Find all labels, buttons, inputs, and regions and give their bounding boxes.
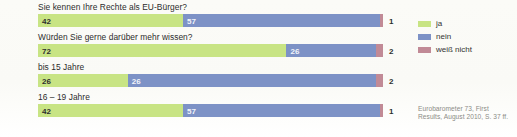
bar-segment-value: 42 (42, 16, 51, 25)
bar-segment-value: 57 (187, 16, 196, 25)
bar-wrapper: 26 26 2 (38, 74, 383, 87)
stacked-bar: 42 57 (38, 14, 383, 27)
legend-item-nein[interactable]: nein (418, 31, 472, 42)
bar-segment-value: 57 (187, 106, 196, 115)
legend-item-ja[interactable]: ja (418, 18, 472, 29)
source-line-1: Eurobarometer 73, First (418, 105, 513, 113)
bar-wrapper: 72 26 2 (38, 44, 383, 57)
legend-item-weiss-nicht[interactable]: weiß nicht (418, 44, 472, 55)
bar-segment-weiss-nicht[interactable] (376, 44, 383, 57)
legend-swatch-icon (418, 21, 431, 27)
source-note: Eurobarometer 73, First Results, August … (418, 105, 513, 121)
bar-segment-weiss-nicht[interactable] (380, 14, 383, 27)
chart-legend: ja nein weiß nicht (418, 18, 472, 57)
row-label: Würden Sie gerne darüber mehr wissen? (38, 32, 193, 42)
bar-segment-ja[interactable]: 42 (38, 14, 183, 27)
bar-segment-nein[interactable]: 57 (183, 14, 380, 27)
bar-segment-value: 26 (42, 76, 51, 85)
row-label: 16 – 19 Jahre (38, 92, 90, 102)
bar-outside-value: 2 (389, 46, 393, 55)
bar-outside-value: 1 (389, 106, 393, 115)
bar-segment-nein[interactable]: 26 (286, 44, 376, 57)
bar-segment-ja[interactable]: 42 (38, 104, 183, 117)
stacked-bar: 42 57 (38, 104, 383, 117)
bar-segment-value: 26 (132, 76, 141, 85)
row-label: bis 15 Jahre (38, 62, 84, 72)
row-label: Sie kennen Ihre Rechte als EU-Bürger? (38, 2, 187, 12)
legend-label: nein (436, 32, 451, 41)
bar-segment-ja[interactable]: 72 (38, 44, 286, 57)
bar-segment-nein[interactable]: 57 (183, 104, 380, 117)
bar-outside-value: 1 (389, 16, 393, 25)
bar-wrapper: 42 57 1 (38, 14, 383, 27)
legend-label: weiß nicht (436, 45, 472, 54)
bar-segment-weiss-nicht[interactable] (376, 74, 383, 87)
bar-segment-value: 42 (42, 106, 51, 115)
legend-swatch-icon (418, 47, 431, 53)
legend-swatch-icon (418, 34, 431, 40)
bar-segment-value: 72 (42, 46, 51, 55)
bar-outside-value: 2 (389, 76, 393, 85)
bar-segment-value: 26 (290, 46, 299, 55)
legend-label: ja (436, 19, 442, 28)
bar-segment-nein[interactable]: 26 (128, 74, 376, 87)
bar-segment-weiss-nicht[interactable] (380, 104, 383, 117)
stacked-bar: 26 26 (38, 74, 383, 87)
stacked-bar-chart: Sie kennen Ihre Rechte als EU-Bürger? 42… (0, 0, 517, 137)
bar-segment-ja[interactable]: 26 (38, 74, 128, 87)
bar-wrapper: 42 57 1 (38, 104, 383, 117)
source-line-2: Results, August 2010, S. 37 ff. (418, 113, 513, 121)
stacked-bar: 72 26 (38, 44, 383, 57)
